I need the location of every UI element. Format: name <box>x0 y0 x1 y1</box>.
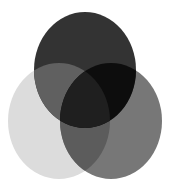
venn-diagram <box>0 0 171 188</box>
venn-diagram-graphic <box>0 0 171 188</box>
